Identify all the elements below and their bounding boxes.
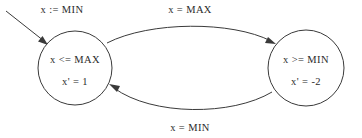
transition-top-label: x = MAX [168, 4, 212, 15]
state-left-circle[interactable] [38, 31, 112, 105]
state-right[interactable]: x >= MIN x' = -2 [268, 30, 344, 106]
initial-edge-label: x := MIN [41, 4, 84, 15]
state-left-flow: x' = 1 [62, 76, 88, 87]
transition-bottom-label: x = MIN [170, 122, 210, 133]
transition-bottom-line [114, 88, 272, 110]
transition-bottom-arrow [109, 84, 272, 110]
state-right-invariant: x >= MIN [283, 54, 329, 65]
transition-top-arrow [107, 26, 276, 44]
initial-arrow-line [6, 11, 44, 41]
state-right-flow: x' = -2 [291, 76, 321, 87]
initial-transition-arrow [6, 11, 48, 45]
state-left-invariant: x <= MAX [50, 54, 100, 65]
diagram-canvas: x <= MAX x' = 1 x >= MIN x' = -2 x := MI… [0, 0, 362, 138]
state-diagram: x <= MAX x' = 1 x >= MIN x' = -2 x := MI… [0, 0, 362, 138]
transition-top-line [107, 26, 271, 43]
state-right-circle[interactable] [268, 30, 344, 106]
transition-top-arrow-head [265, 37, 276, 44]
state-left[interactable]: x <= MAX x' = 1 [38, 31, 112, 105]
